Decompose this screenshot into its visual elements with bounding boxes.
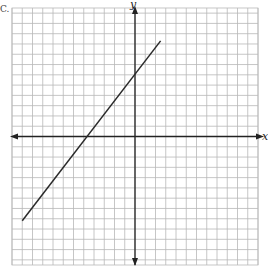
y-axis-label: y (129, 0, 137, 11)
x-arrow-left-icon (10, 134, 18, 140)
coordinate-plane: x y (0, 0, 268, 266)
axes (10, 6, 264, 266)
x-axis-label: x (262, 130, 268, 143)
